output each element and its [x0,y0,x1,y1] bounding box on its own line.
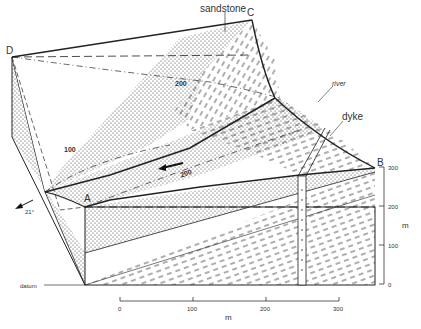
corner-label-C: C [247,7,254,18]
horizontal-scale [120,297,339,301]
sandstone-label: sandstone [200,3,247,14]
hscale-tick-100: 100 [187,306,198,312]
edge-left-bottom [45,192,85,285]
corner-label-D: D [6,45,13,56]
dyke-leader [330,121,343,136]
contour-label-100: 100 [64,146,76,153]
corner-label-A: A [84,193,91,204]
vertical-scale [379,167,384,284]
hscale-tick-300: 300 [333,306,344,312]
hscale-tick-0: 0 [118,306,122,312]
vscale-tick-300: 300 [388,165,399,171]
hscale-tick-200: 200 [260,306,271,312]
river-label: river [332,80,346,87]
vscale-tick-0: 0 [388,282,392,288]
river-leader [318,86,333,102]
vscale-tick-200: 200 [388,204,399,210]
hscale-unit: m [225,313,232,322]
dip-arrow-left-icon [15,200,33,209]
dip-label: 21° [25,209,35,215]
datum-label: datum [20,283,37,289]
contour-label-200-top: 200 [175,80,187,87]
vscale-tick-100: 100 [388,243,399,249]
vscale-unit: m [402,221,409,230]
block-diagram: D C B A sandstone river dyke datum 200 1… [0,0,421,329]
dyke-label: dyke [342,111,364,122]
corner-label-B: B [377,157,384,168]
